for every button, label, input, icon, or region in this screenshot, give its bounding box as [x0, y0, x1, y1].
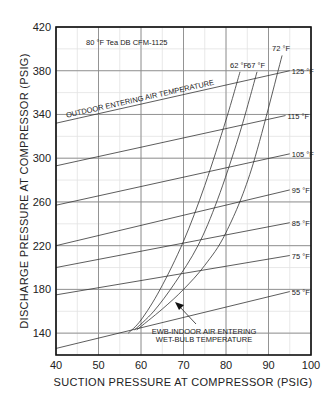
- y-tick-label: 380: [33, 65, 51, 77]
- outdoor-temp-label: 75 °F: [292, 252, 310, 261]
- y-axis-label: DISCHARGE PRESSURE AT COMPRESSOR (PSIG): [18, 53, 30, 328]
- outdoor-temp-line: [56, 71, 290, 123]
- x-tick-label: 60: [135, 359, 147, 371]
- y-tick-label: 220: [33, 240, 51, 252]
- x-tick-label: 50: [92, 359, 104, 371]
- y-tick-label: 140: [33, 327, 51, 339]
- ewb-curve: [128, 72, 240, 333]
- x-tick-label: 70: [177, 359, 189, 371]
- gridlines: [56, 27, 311, 355]
- x-tick-label: 80: [220, 359, 232, 371]
- x-tick-label: 40: [50, 359, 62, 371]
- y-tick-label: 420: [33, 21, 51, 33]
- ewb-curve-label: 72 °F: [272, 44, 290, 53]
- ewb-annotation-line-2: WET-BULB TEMPERATURE: [156, 335, 252, 344]
- y-tick-label: 300: [33, 152, 51, 164]
- outdoor-temp-line: [56, 223, 290, 268]
- chart-title: 80 °F Tea DB CFM-1125: [86, 38, 168, 47]
- outdoor-temp-label: 85 °F: [292, 219, 310, 228]
- outdoor-temp-label: 125 °F: [292, 67, 315, 76]
- ewb-curve-label: 62 °F: [230, 61, 248, 70]
- chart: 405060708090100140180220260300340380420 …: [0, 0, 333, 402]
- x-axis-label: SUCTION PRESSURE AT COMPRESSOR (PSIG): [54, 376, 313, 388]
- outdoor-temp-label: 105 °F: [292, 150, 315, 159]
- ewb-curve: [135, 72, 257, 330]
- outdoor-series-label: OUTDOOR ENTERING AIR TEMPERATURE: [65, 78, 215, 120]
- outdoor-temp-label: 95 °F: [292, 186, 310, 195]
- y-tick-label: 340: [33, 108, 51, 120]
- outdoor-temp-line: [56, 154, 290, 205]
- outdoor-temp-line: [56, 190, 290, 246]
- ewb-curve-label: 67 °F: [247, 61, 265, 70]
- y-tick-label: 260: [33, 196, 51, 208]
- x-tick-label: 90: [262, 359, 274, 371]
- ewb-arrow-icon: [175, 302, 196, 324]
- outdoor-temp-label: 55 °F: [292, 288, 310, 297]
- x-tick-label: 100: [302, 359, 320, 371]
- y-tick-label: 180: [33, 283, 51, 295]
- outdoor-temp-label: 115 °F: [288, 112, 310, 121]
